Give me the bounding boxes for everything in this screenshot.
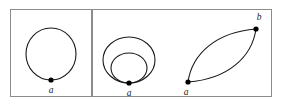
figure-container: a a a b	[0, 0, 281, 106]
node-a-bigon-label: a	[184, 87, 189, 97]
panel-left: a	[11, 10, 92, 97]
node-b-bigon-label: b	[257, 12, 262, 22]
panel-right: a a b	[93, 10, 272, 99]
figure-canvas: a a a b	[0, 0, 281, 106]
node-a-bigon-dot	[185, 79, 190, 84]
node-a-left-dot	[48, 77, 53, 82]
node-a-tangent-label: a	[127, 88, 132, 98]
node-b-bigon-dot	[253, 26, 258, 31]
panel-right-frame	[93, 10, 272, 97]
panel-left-frame	[11, 10, 92, 97]
node-a-tangent-dot	[126, 80, 131, 85]
node-a-left-label: a	[49, 85, 54, 95]
